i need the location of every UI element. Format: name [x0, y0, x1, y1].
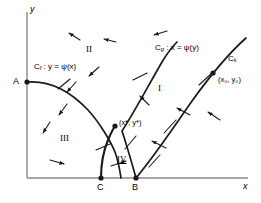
arrow-field [140, 96, 149, 105]
point-x0y0-dot [210, 70, 215, 75]
point-label-c: C [97, 183, 104, 192]
tick-on-curve [96, 144, 110, 150]
x-axis-label: x [243, 182, 248, 191]
tick-on-curve [133, 73, 147, 80]
arrow-field [59, 104, 67, 115]
axes-group [27, 12, 248, 178]
arrow-field [89, 67, 99, 76]
figure-canvas [0, 0, 261, 203]
region-label-two: II [86, 45, 92, 54]
curves-group [27, 38, 246, 178]
curve-cg [122, 42, 177, 178]
tick-on-curve [149, 155, 160, 167]
point-xstar-ystar-dot [112, 123, 117, 128]
point-a-dot [24, 79, 29, 84]
point-label-a: A [13, 77, 19, 86]
curve-cf [27, 82, 121, 178]
point-label-b: B [132, 183, 138, 192]
region-label-four: IV [117, 155, 127, 164]
segment-c-to-branch [101, 126, 115, 178]
point-label-x0y0: (x₀, y₀) [218, 76, 241, 84]
tick-on-curve [125, 136, 136, 149]
curve-label-ck: Ck [228, 55, 237, 64]
region-label-three: III [60, 134, 69, 143]
curve-label-cg: Cg : x = ψ(y) [155, 44, 199, 53]
arrow-field [208, 112, 220, 120]
point-label-xstar-ystar: (x*, y*) [119, 119, 142, 127]
curve-label-ck-subscript: k [234, 57, 237, 63]
phase-plane-figure: y x A C B (x₀, y₀) (x*, y*) Cf : y = ψ(x… [0, 0, 261, 203]
arrow-field [69, 33, 80, 40]
arrow-field [154, 31, 167, 35]
arrow-field [67, 82, 76, 92]
point-c-dot [98, 175, 103, 180]
arrow-field [43, 122, 50, 133]
curve-label-cf: Cf : y = ψ(x) [34, 63, 76, 72]
curve-label-cg-rest: : x = ψ(y) [164, 43, 199, 52]
region-label-one: I [158, 84, 161, 93]
curve-label-cf-rest: : y = ψ(x) [41, 62, 76, 71]
arrow-field [50, 160, 64, 164]
y-axis-label: y [30, 5, 35, 14]
tick-on-curve [58, 79, 70, 89]
arrow-field [104, 39, 116, 42]
point-b-dot [133, 175, 138, 180]
